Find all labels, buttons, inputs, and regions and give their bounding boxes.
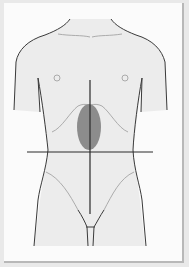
- torso-diagram: [0, 0, 189, 267]
- epigastric-region-highlight: [77, 104, 101, 150]
- figure-frame: [0, 0, 189, 267]
